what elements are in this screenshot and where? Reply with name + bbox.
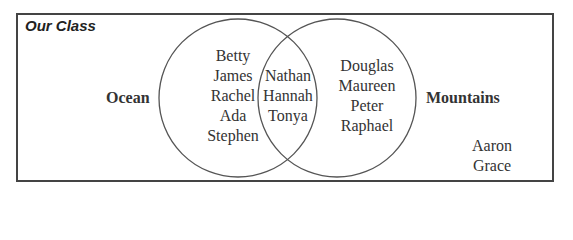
list-item: Maureen [325,76,409,96]
neither-list: Aaron Grace [462,136,522,176]
mountains-label: Mountains [426,89,500,107]
list-item: Betty [190,46,276,66]
list-item: Stephen [190,126,276,146]
mountains-only-list: Douglas Maureen Peter Raphael [325,56,409,136]
list-item: Aaron [462,136,522,156]
list-item: Douglas [325,56,409,76]
list-item: Tonya [257,106,319,126]
list-item: Raphael [325,116,409,136]
both-list: Nathan Hannah Tonya [257,66,319,126]
list-item: Hannah [257,86,319,106]
list-item: Grace [462,156,522,176]
ocean-label: Ocean [106,89,150,107]
list-item: Nathan [257,66,319,86]
list-item: Peter [325,96,409,116]
